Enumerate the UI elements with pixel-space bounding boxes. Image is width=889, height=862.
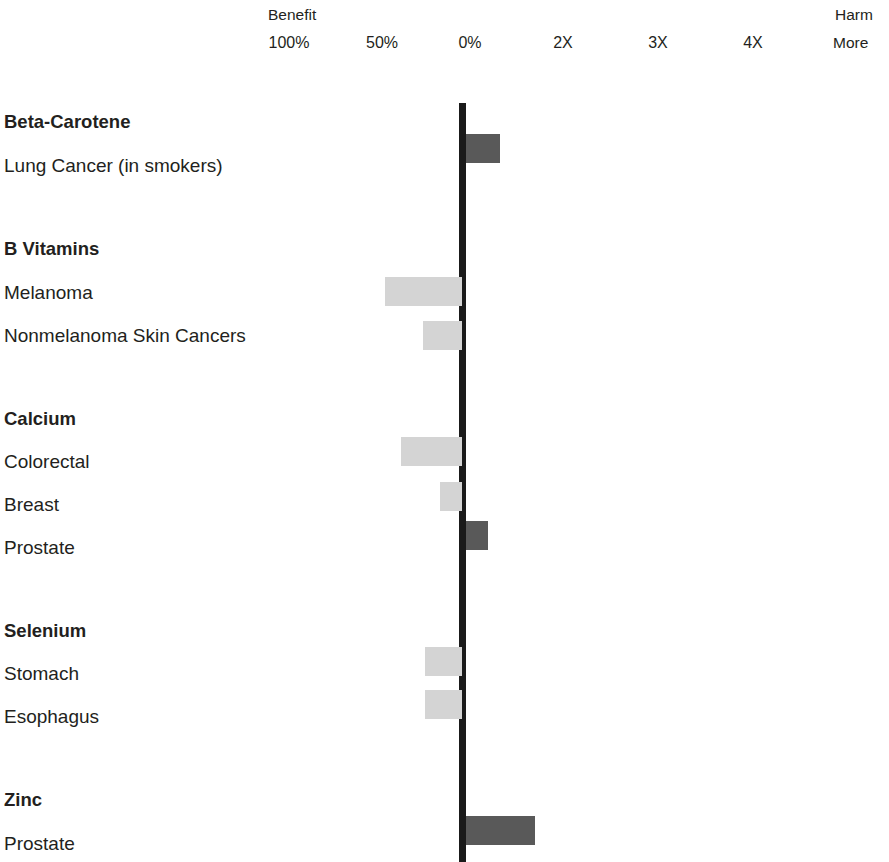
bar-stomach	[425, 647, 462, 676]
row-label-r-melanoma: Melanoma	[4, 283, 93, 302]
group-label-g-selenium: Selenium	[4, 622, 86, 641]
bar-prostate-zn	[466, 816, 535, 845]
row-label-r-colorectal: Colorectal	[4, 452, 90, 471]
bar-melanoma	[385, 277, 462, 306]
bar-prostate-ca	[466, 521, 488, 550]
row-label-r-prostate-zn: Prostate	[4, 834, 75, 853]
bar-lung	[466, 134, 500, 163]
bar-esophagus	[425, 690, 462, 719]
supplement-cancer-risk-chart: Benefit Harm More 100%50%0%2X3X4X Beta-C…	[0, 0, 889, 862]
row-label-r-prostate-ca: Prostate	[4, 538, 75, 557]
group-label-g-zinc: Zinc	[4, 791, 42, 810]
row-label-r-nonmelanoma: Nonmelanoma Skin Cancers	[4, 326, 246, 345]
bar-colorectal	[401, 437, 462, 466]
group-label-g-beta: Beta-Carotene	[4, 113, 130, 132]
row-label-r-stomach: Stomach	[4, 664, 79, 683]
group-label-g-bvit: B Vitamins	[4, 240, 99, 259]
row-label-r-lung: Lung Cancer (in smokers)	[4, 156, 223, 175]
row-label-r-esophagus: Esophagus	[4, 707, 99, 726]
bar-nonmelanoma	[423, 321, 462, 350]
group-label-g-calcium: Calcium	[4, 410, 76, 429]
row-label-r-breast: Breast	[4, 495, 59, 514]
bar-breast	[440, 482, 462, 511]
plot-area: Beta-CaroteneLung Cancer (in smokers)B V…	[0, 0, 889, 862]
